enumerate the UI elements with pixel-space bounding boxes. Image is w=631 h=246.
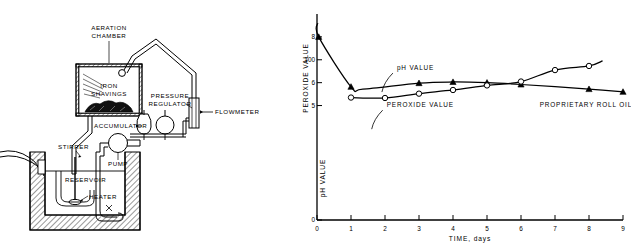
apparatus-schematic: IRON SHAVINGS AERATION CHAMBER FLOWMETER (0, 0, 300, 246)
annotation-label: PROPRIETARY ROLL OIL (540, 101, 631, 108)
series-curve (351, 61, 603, 98)
iron-shavings-label-line1: IRON (100, 82, 118, 89)
y-tick-label: 8 (311, 33, 315, 40)
series-layer (316, 23, 626, 101)
accumulator-label: ACCUMULATOR (94, 122, 147, 129)
series-curve (316, 23, 623, 92)
x-axis-ticks: 0123456789 (315, 215, 625, 232)
aeration-chamber: IRON SHAVINGS (76, 64, 142, 116)
x-tick-label: 8 (587, 225, 591, 232)
x-tick-label: 3 (417, 225, 421, 232)
y-tick-label: 6 (311, 79, 315, 86)
figure-root: IRON SHAVINGS AERATION CHAMBER FLOWMETER (0, 0, 631, 246)
x-tick-label: 1 (349, 225, 353, 232)
y-tick-label: 0 (311, 216, 315, 223)
flowmeter-label: FLOWMETER (215, 108, 259, 115)
heater-label: HEATER (89, 193, 117, 200)
y-tick-label: 5 (311, 102, 315, 109)
pump (109, 134, 141, 153)
flowmeter (189, 98, 213, 128)
x-tick-label: 7 (553, 225, 557, 232)
marker-circle (382, 95, 387, 100)
pressure-regulator-label-line1: PRESSURE (151, 92, 189, 99)
aeration-chamber-label-line1: AERATION (91, 24, 127, 31)
series-ph-value (316, 23, 626, 94)
marker-circle (416, 91, 421, 96)
marker-circle (484, 83, 489, 88)
y-axis-title-ph: pH VALUE (319, 159, 327, 198)
marker-circle (450, 87, 455, 92)
iron-shavings-label-line2: SHAVINGS (91, 90, 127, 97)
annotation-label: pH VALUE (397, 64, 434, 72)
annotation-layer: pH VALUEPEROXIDE VALUEPROPRIETARY ROLL O… (372, 64, 631, 129)
x-tick-label: 2 (383, 225, 387, 232)
oxidation-chart-panel: 0561008 0123456789 TIME, days PEROXIDE V… (300, 0, 631, 246)
pressure-regulator-label-line2: REGULATOR (149, 100, 192, 107)
annotation-leader (382, 73, 393, 92)
x-tick-label: 5 (485, 225, 489, 232)
inlet-port (38, 160, 45, 174)
stirrer-leader (76, 151, 81, 157)
x-tick-label: 9 (621, 225, 625, 232)
apparatus-diagram-panel: IRON SHAVINGS AERATION CHAMBER FLOWMETER (0, 0, 300, 246)
x-axis-title: TIME, days (449, 235, 491, 243)
stirrer-label: STIRRER (58, 143, 89, 150)
x-tick-label: 6 (519, 225, 523, 232)
annotation-label: PEROXIDE VALUE (387, 101, 454, 108)
marker-circle (348, 95, 353, 100)
aeration-chamber-label-line2: CHAMBER (92, 32, 127, 39)
oxidation-chart: 0561008 0123456789 TIME, days PEROXIDE V… (300, 0, 631, 246)
y-axis-title-peroxide: PEROXIDE VALUE (302, 43, 309, 113)
x-tick-label: 4 (451, 225, 455, 232)
marker-circle (518, 79, 523, 84)
x-tick-label: 0 (315, 225, 319, 232)
reservoir-label: RESERVOIR (65, 176, 106, 183)
marker-circle (552, 67, 557, 72)
annotation-leader (372, 110, 383, 129)
marker-circle (586, 63, 591, 68)
